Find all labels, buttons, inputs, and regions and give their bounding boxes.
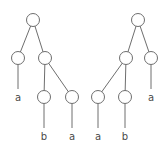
leaf-label: a <box>95 131 101 142</box>
leaf-label: a <box>148 92 154 103</box>
leaf-label: a <box>69 131 75 142</box>
leaf-label: a <box>15 92 21 103</box>
tree-node <box>119 91 132 104</box>
tree-node <box>27 14 40 27</box>
tree-node <box>66 91 79 104</box>
tree-node <box>92 91 105 104</box>
parse-tree-diagram: abaaab <box>0 0 167 150</box>
leaf-label: b <box>122 131 128 142</box>
tree-node <box>39 52 52 65</box>
tree-node <box>38 91 51 104</box>
tree-node <box>12 52 25 65</box>
tree-node <box>132 14 145 27</box>
tree-edge <box>45 58 72 97</box>
tree-node <box>145 52 158 65</box>
leaf-label: b <box>41 131 47 142</box>
leaf-labels: abaaab <box>15 92 154 142</box>
tree-node <box>120 52 133 65</box>
